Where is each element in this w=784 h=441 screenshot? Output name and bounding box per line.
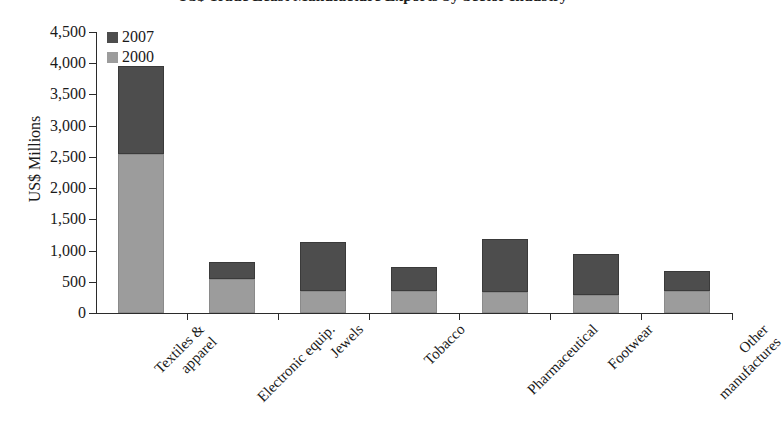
bar-segment-2007 bbox=[482, 239, 528, 291]
bar-segment-2007 bbox=[664, 271, 710, 292]
y-axis-tick-label: 1,500 bbox=[0, 211, 86, 227]
y-axis-tick bbox=[89, 126, 96, 127]
category-label-line: Footwear bbox=[604, 321, 655, 372]
bar-column bbox=[391, 267, 437, 313]
x-axis-category-label: Tobacco bbox=[421, 321, 469, 369]
bar-segment-2007 bbox=[209, 262, 255, 279]
x-axis-tick bbox=[641, 314, 642, 320]
y-axis-tick-label: 3,500 bbox=[0, 86, 86, 102]
y-axis-tick-label: 2,000 bbox=[0, 180, 86, 196]
chart-title: US$ Trade Least Manufacture Exports by S… bbox=[0, 0, 745, 5]
chart-legend: 2007 2000 bbox=[107, 27, 154, 67]
bar-column bbox=[118, 66, 164, 313]
legend-item-2000: 2000 bbox=[107, 47, 154, 67]
x-axis-tick bbox=[550, 314, 551, 320]
x-axis-category-label: Footwear bbox=[604, 321, 657, 374]
bar-column bbox=[573, 254, 619, 313]
x-axis-tick bbox=[278, 314, 279, 320]
x-axis-tick bbox=[459, 314, 460, 320]
y-axis-tick bbox=[89, 157, 96, 158]
bar-segment-2000 bbox=[664, 291, 710, 313]
y-axis-tick-label: 3,000 bbox=[0, 118, 86, 134]
legend-label-2000: 2000 bbox=[122, 49, 154, 65]
legend-swatch-2000-icon bbox=[107, 52, 118, 63]
legend-item-2007: 2007 bbox=[107, 27, 154, 47]
x-axis-tick bbox=[187, 314, 188, 320]
bar-segment-2000 bbox=[573, 295, 619, 313]
x-axis-category-label: Textiles &apparel bbox=[152, 321, 221, 390]
plot-area bbox=[96, 32, 732, 313]
bar-segment-2007 bbox=[300, 242, 346, 291]
y-axis-tick-label: 1,000 bbox=[0, 243, 86, 259]
y-axis-tick bbox=[89, 251, 96, 252]
bar-segment-2007 bbox=[573, 254, 619, 295]
bar-segment-2007 bbox=[118, 66, 164, 154]
x-axis-category-label: Othermanufactures bbox=[702, 321, 784, 403]
bar-segment-2000 bbox=[118, 154, 164, 313]
bar-segment-2000 bbox=[300, 291, 346, 313]
y-axis-tick bbox=[89, 94, 96, 95]
bar-segment-2007 bbox=[391, 267, 437, 291]
y-axis-tick-label: 4,000 bbox=[0, 55, 86, 71]
x-axis-tick bbox=[369, 314, 370, 320]
x-axis-category-label: Electronic equip. bbox=[254, 321, 339, 406]
x-axis-category-label: Pharmaceutical bbox=[524, 321, 602, 399]
y-axis-tick bbox=[89, 219, 96, 220]
category-label-line: Pharmaceutical bbox=[524, 321, 601, 398]
bar-column bbox=[482, 239, 528, 313]
x-axis-line bbox=[96, 313, 733, 314]
y-axis-tick bbox=[89, 63, 96, 64]
bar-segment-2000 bbox=[209, 279, 255, 313]
y-axis-tick-label: 4,500 bbox=[0, 24, 86, 40]
bar-column bbox=[209, 262, 255, 313]
legend-label-2007: 2007 bbox=[122, 29, 154, 45]
y-axis-tick bbox=[89, 188, 96, 189]
y-axis-tick bbox=[89, 313, 96, 314]
y-axis-tick bbox=[89, 32, 96, 33]
category-label-line: Electronic equip. bbox=[254, 321, 338, 405]
x-axis-tick bbox=[732, 314, 733, 320]
y-axis-tick-label: 500 bbox=[0, 274, 86, 290]
y-axis-tick bbox=[89, 282, 96, 283]
category-label-line: Tobacco bbox=[421, 321, 468, 368]
y-axis-tick-label: 2,500 bbox=[0, 149, 86, 165]
y-axis-tick-label: 0 bbox=[0, 305, 86, 321]
bar-column bbox=[300, 242, 346, 313]
bar-segment-2000 bbox=[391, 291, 437, 313]
bar-segment-2000 bbox=[482, 292, 528, 313]
legend-swatch-2007-icon bbox=[107, 32, 118, 43]
bar-column bbox=[664, 271, 710, 313]
